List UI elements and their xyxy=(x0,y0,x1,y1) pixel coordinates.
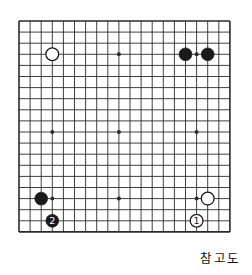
star-point xyxy=(117,130,121,134)
stone-white[interactable] xyxy=(201,192,214,205)
star-point xyxy=(195,197,199,201)
stone-white[interactable] xyxy=(46,48,59,61)
stone-move-number: 1 xyxy=(194,215,200,226)
diagram-caption: 참고도 xyxy=(0,248,240,267)
stone-disc xyxy=(46,48,59,61)
stone-black[interactable] xyxy=(35,192,48,205)
stone-black[interactable] xyxy=(179,48,192,61)
stone-black[interactable]: 2 xyxy=(46,214,59,227)
stone-disc xyxy=(179,48,192,61)
star-point xyxy=(117,197,121,201)
star-point xyxy=(50,197,54,201)
star-point xyxy=(195,52,199,56)
stone-disc xyxy=(35,192,48,205)
stone-white[interactable]: 1 xyxy=(190,214,203,227)
star-points xyxy=(50,52,198,200)
star-point xyxy=(195,130,199,134)
star-point xyxy=(50,130,54,134)
go-diagram-figure: 21 참고도 xyxy=(0,0,252,275)
star-point xyxy=(117,52,121,56)
stone-disc xyxy=(201,48,214,61)
stone-disc xyxy=(201,192,214,205)
go-board-container: 21 xyxy=(0,0,252,246)
stone-black[interactable] xyxy=(201,48,214,61)
stones-layer: 21 xyxy=(35,48,214,227)
go-board: 21 xyxy=(0,0,252,246)
stone-move-number: 2 xyxy=(49,215,55,226)
